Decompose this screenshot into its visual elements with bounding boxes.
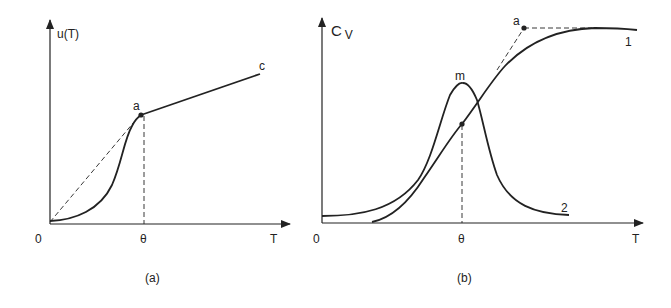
panel-b-caption: (b) [457, 271, 472, 285]
panel-b-curve-1 [372, 28, 637, 222]
panel-b-origin-label: 0 [313, 232, 320, 246]
panel-a-chord-dashed [50, 122, 134, 222]
panel-a-line-ac [141, 74, 260, 115]
panel-b: CV 0 θ T m a 1 2 (b) [313, 14, 643, 285]
panel-a: u(T) 0 θ T a c (a) [35, 20, 290, 285]
panel-a-point-a-label: a [133, 99, 140, 113]
panel-b-y-label: CV [331, 22, 353, 42]
panel-b-x-label: T [632, 232, 640, 246]
panel-b-curve-1-label: 1 [625, 35, 632, 49]
panel-a-x-label: T [270, 232, 278, 246]
panel-a-theta-label: θ [140, 232, 147, 246]
panel-a-point-c-label: c [259, 59, 265, 73]
panel-b-tangent-dashed [497, 28, 524, 70]
panel-b-peak-label: m [455, 69, 465, 83]
panel-b-theta-label: θ [458, 232, 465, 246]
panel-a-y-label: u(T) [57, 27, 79, 41]
panel-a-point-a [138, 112, 143, 117]
panel-b-point-a [521, 25, 526, 30]
panel-a-origin-label: 0 [35, 232, 42, 246]
panel-b-curve-2 [322, 83, 569, 216]
panel-b-theta-point [459, 121, 464, 126]
panel-a-caption: (a) [145, 271, 160, 285]
panel-b-point-a-label: a [513, 14, 520, 28]
panel-b-curve-2-label: 2 [561, 201, 568, 215]
figure-canvas: u(T) 0 θ T a c (a) CV 0 θ T m a 1 2 (b) [0, 0, 671, 308]
panel-a-u-curve [50, 115, 141, 221]
